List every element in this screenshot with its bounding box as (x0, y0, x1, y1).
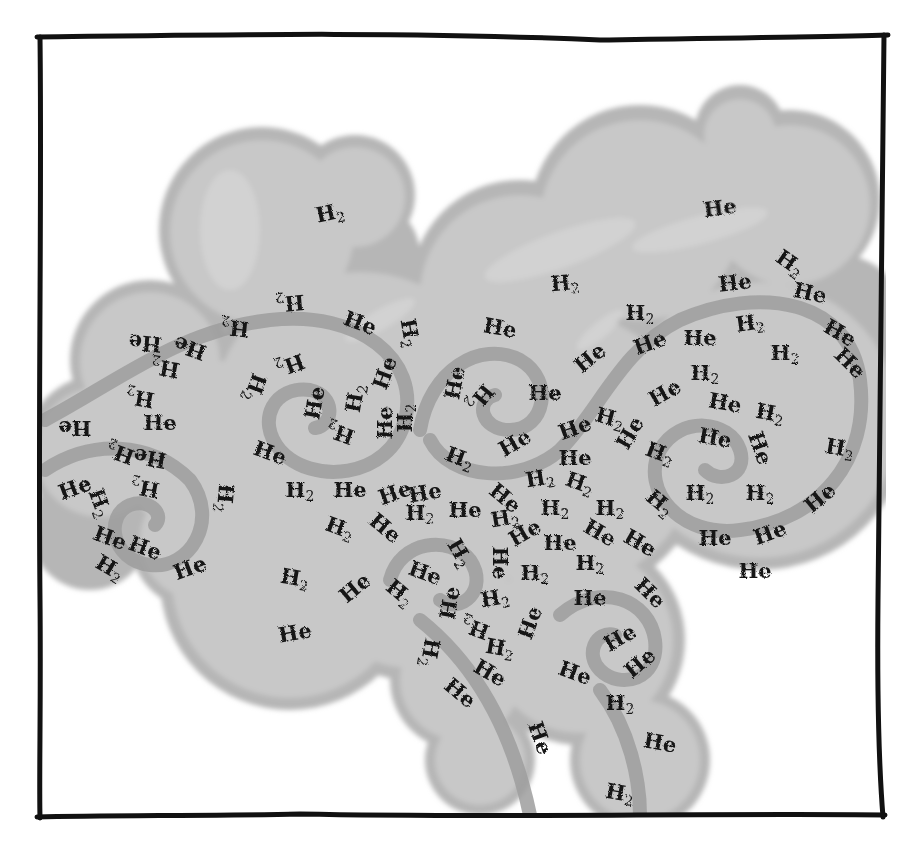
he-atom-label: He (573, 585, 606, 610)
he-atom-label: He (683, 325, 716, 350)
he-atom-label: He (558, 445, 591, 470)
he-atom-label: He (143, 410, 176, 435)
he-atom-label: He (702, 193, 738, 222)
he-atom-label: He (58, 416, 91, 441)
he-atom-label: He (448, 497, 481, 522)
he-atom-label: He (543, 530, 576, 555)
he-atom-label: He (488, 546, 513, 579)
he-atom-label: He (738, 558, 771, 583)
he-atom-label: He (333, 477, 366, 502)
gas-cloud-illustration: H2HeH2HeH2HeH2HeH2HeHeH2H2HeH2HeHeH2H2He… (0, 0, 924, 860)
he-atom-label: He (698, 525, 731, 550)
he-atom-label: He (717, 268, 753, 296)
he-atom-label: He (528, 380, 561, 405)
